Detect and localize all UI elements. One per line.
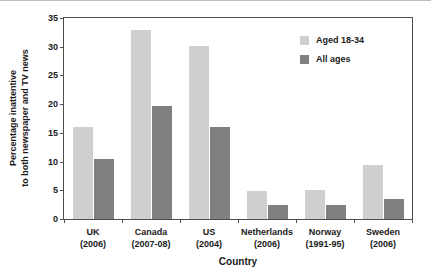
y-axis-title-line2: to both newspaper and TV news [19,49,31,187]
legend-label: All ages [316,54,351,64]
bar [94,159,114,219]
y-tick-mark [60,18,64,19]
y-tick-mark [60,162,64,163]
y-tick-label: 0 [53,214,58,224]
x-axis-title: Country [63,256,413,267]
bar [363,165,383,219]
y-tick-label: 20 [48,99,58,109]
bar [247,191,267,219]
legend-swatch-icon [300,55,309,64]
x-tick-mark [122,219,123,223]
legend-swatch-icon [300,36,309,45]
y-tick-label: 30 [48,42,58,52]
x-tick-label-country: Sweden [343,226,423,238]
y-axis-title-line1: Percentage inattentive [7,49,19,187]
y-tick-label: 35 [48,13,58,23]
y-axis-title: Percentage inattentive to both newspaper… [2,18,36,218]
y-tick-mark [60,75,64,76]
y-tick-label: 5 [53,185,58,195]
bar [189,46,209,219]
x-tick-mark [180,219,181,223]
x-tick-mark [354,219,355,223]
x-tick-label-year: (2006) [343,238,423,250]
bar [152,106,172,219]
bar [326,205,346,219]
x-tick-mark [296,219,297,223]
figure: Percentage inattentive to both newspaper… [0,0,431,280]
x-tick-label-sweden: Sweden(2006) [343,226,423,250]
top-rule-divider [0,0,431,1]
y-tick-mark [60,133,64,134]
bar [305,190,325,219]
y-tick-label: 15 [48,128,58,138]
x-tick-mark [412,219,413,223]
chart-legend: Aged 18-34All ages [300,35,364,73]
bar [131,30,151,220]
bar [268,205,288,219]
x-tick-mark [238,219,239,223]
y-tick-mark [60,47,64,48]
bar [210,127,230,219]
y-tick-mark [60,104,64,105]
legend-label: Aged 18-34 [316,35,364,45]
y-tick-mark [60,190,64,191]
y-tick-label: 10 [48,157,58,167]
y-tick-label: 25 [48,70,58,80]
legend-item-all-ages: All ages [300,54,364,64]
bar [73,127,93,219]
bar [384,199,404,219]
legend-item-aged-18-34: Aged 18-34 [300,35,364,45]
x-tick-mark [64,219,65,223]
